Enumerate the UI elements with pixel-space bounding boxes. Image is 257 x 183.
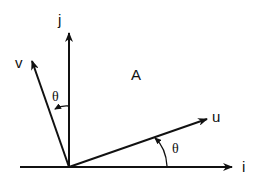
u-vector: [69, 119, 207, 167]
label-theta-u: θ: [172, 141, 179, 156]
label-u: u: [212, 108, 220, 125]
theta-arc-v: [55, 106, 69, 109]
rotation-diagram: j v A θ u θ i: [0, 0, 257, 183]
label-region-a: A: [131, 66, 141, 83]
theta-arc-u: [155, 138, 167, 166]
label-v: v: [15, 54, 23, 71]
label-theta-v: θ: [52, 89, 59, 104]
v-vector: [32, 61, 69, 167]
label-i: i: [242, 158, 245, 175]
label-j: j: [57, 11, 61, 28]
